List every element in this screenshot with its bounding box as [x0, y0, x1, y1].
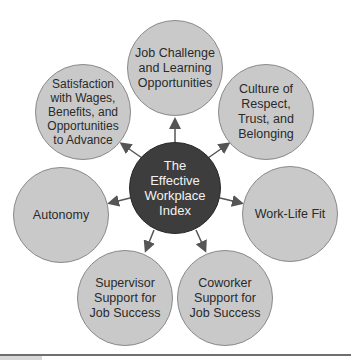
node-work-life-fit: Work-Life Fit: [242, 166, 338, 262]
node-culture: Culture of Respect, Trust, and Belonging: [218, 64, 314, 160]
arrow-to-satisfaction: [122, 144, 142, 158]
bottom-divider: [0, 354, 351, 356]
center-node: The Effective Workplace Index: [129, 142, 221, 234]
node-satisfaction: Satisfaction with Wages, Benefits, and O…: [35, 64, 131, 160]
arrow-to-coworker: [196, 230, 205, 250]
node-label: Coworker Support for Job Success: [190, 276, 261, 321]
center-label: The Effective Workplace Index: [144, 158, 205, 218]
node-autonomy: Autonomy: [13, 167, 109, 263]
arrow-to-culture: [208, 144, 228, 158]
arrow-to-autonomy: [110, 198, 130, 203]
node-label: Autonomy: [33, 208, 89, 223]
bottom-tab: [0, 356, 42, 360]
node-label: Job Challenge and Learning Opportunities: [135, 46, 215, 91]
node-label: Satisfaction with Wages, Benefits, and O…: [47, 77, 118, 147]
node-job-challenge: Job Challenge and Learning Opportunities: [127, 20, 223, 116]
effective-workplace-index-diagram: Job Challenge and Learning Opportunities…: [0, 0, 351, 360]
arrow-to-supervisor: [146, 230, 154, 250]
node-supervisor-support: Supervisor Support for Job Success: [77, 250, 173, 346]
arrow-to-work-life: [220, 198, 241, 203]
node-label: Culture of Respect, Trust, and Belonging: [238, 82, 294, 142]
node-label: Supervisor Support for Job Success: [90, 276, 161, 321]
node-coworker-support: Coworker Support for Job Success: [177, 250, 273, 346]
node-label: Work-Life Fit: [255, 207, 326, 222]
